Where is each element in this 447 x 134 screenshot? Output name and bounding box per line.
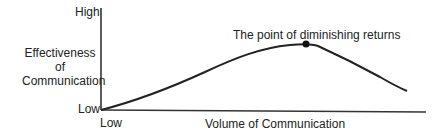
x-axis [101, 110, 426, 112]
y-axis-title: Effectiveness of Communication [22, 46, 98, 88]
diminishing-returns-annotation: The point of diminishing returns [233, 28, 400, 42]
y-title-line-3: Communication [22, 74, 98, 88]
y-title-line-2: of [22, 60, 98, 74]
y-axis-low-label: Low [78, 102, 100, 116]
y-axis-high-label: High [75, 5, 100, 19]
x-axis-title: Volume of Communication [205, 117, 345, 131]
effectiveness-curve [101, 44, 407, 110]
x-axis-low-label: Low [100, 116, 122, 130]
y-title-line-1: Effectiveness [22, 46, 98, 60]
